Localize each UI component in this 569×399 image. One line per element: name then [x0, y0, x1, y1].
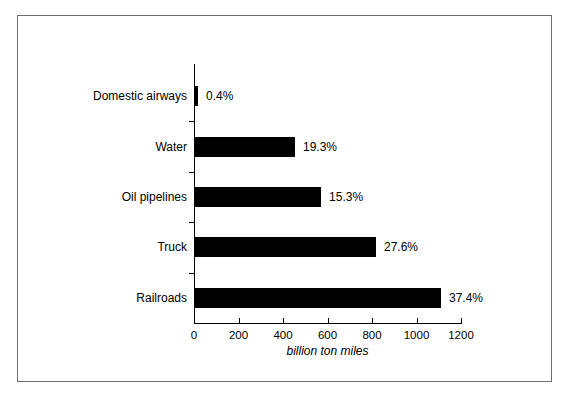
x-tick-label: 1200 [448, 329, 474, 341]
bar [194, 288, 441, 308]
bar-row: Railroads37.4% [194, 288, 461, 308]
x-tick [194, 318, 195, 324]
chart-frame-border: 020040060080010001200 Domestic airways0.… [17, 15, 552, 382]
x-tick-label: 1000 [404, 329, 430, 341]
bar-value-label: 27.6% [384, 240, 418, 254]
bar-row: Water19.3% [194, 137, 461, 157]
x-axis-label: billion ton miles [194, 344, 461, 358]
x-tick-label: 800 [362, 329, 381, 341]
bar-row: Oil pipelines15.3% [194, 187, 461, 207]
x-tick-label: 200 [229, 329, 248, 341]
bar-value-label: 19.3% [303, 140, 337, 154]
x-tick-label: 400 [273, 329, 292, 341]
category-label: Truck [157, 240, 187, 254]
bar [194, 137, 295, 157]
bar-value-label: 15.3% [329, 190, 363, 204]
bar [194, 187, 321, 207]
x-tick-label: 600 [318, 329, 337, 341]
y-tick [189, 222, 195, 223]
y-tick [189, 172, 195, 173]
bar [194, 86, 198, 106]
bar-row: Domestic airways0.4% [194, 86, 461, 106]
bar-value-label: 37.4% [449, 291, 483, 305]
category-label: Domestic airways [93, 89, 187, 103]
bar-row: Truck27.6% [194, 237, 461, 257]
y-tick [189, 121, 195, 122]
x-tick [328, 318, 329, 324]
category-label: Oil pipelines [122, 190, 187, 204]
chart-figure: 020040060080010001200 Domestic airways0.… [0, 0, 569, 399]
x-tick [283, 318, 284, 324]
x-tick [461, 318, 462, 324]
x-tick [417, 318, 418, 324]
category-label: Water [155, 140, 187, 154]
category-label: Railroads [136, 291, 187, 305]
plot-area: 020040060080010001200 Domestic airways0.… [194, 71, 461, 323]
bar-value-label: 0.4% [206, 89, 233, 103]
bar [194, 237, 376, 257]
y-tick [189, 273, 195, 274]
x-tick [372, 318, 373, 324]
x-tick [239, 318, 240, 324]
x-tick-label: 0 [191, 329, 197, 341]
